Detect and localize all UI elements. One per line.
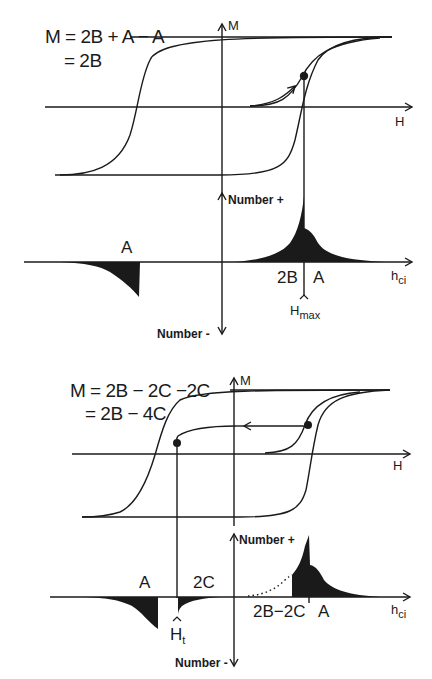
number-minus-label: Number - xyxy=(157,327,210,341)
label-a-neg: A xyxy=(139,573,151,592)
label-a-neg: A xyxy=(121,238,133,257)
state-point-end xyxy=(173,439,181,447)
neg-peak-a xyxy=(85,597,158,629)
label-a-pos: A xyxy=(313,268,325,287)
ht-label: Ht xyxy=(170,625,185,646)
h-axis-label: H xyxy=(393,458,402,473)
state-point-start xyxy=(304,421,312,429)
neg-peak-a xyxy=(60,262,140,297)
equation-line1: M = 2B − 2C −2C xyxy=(70,380,210,401)
label-2b: 2B xyxy=(277,268,298,287)
pos-peak-2b-2c-a xyxy=(292,535,380,597)
label-2c: 2C xyxy=(193,573,215,592)
equation-line1: M = 2B + A − A xyxy=(45,26,165,47)
number-plus-label: Number + xyxy=(239,533,295,547)
h-axis-label: H xyxy=(395,114,404,129)
hci-label: hci xyxy=(391,268,406,286)
ht-caret-icon xyxy=(173,617,181,621)
m-axis-label: M xyxy=(228,18,239,33)
top-distribution xyxy=(24,180,412,334)
return-curve xyxy=(177,426,236,443)
hmax-label: Hmax xyxy=(290,303,321,321)
hci-label: hci xyxy=(391,602,406,620)
equation-line2: = 2B xyxy=(64,50,102,71)
bottom-distribution xyxy=(50,534,410,666)
hysteresis-diagram: M = 2B + A − A = 2B M H A 2B A Number + … xyxy=(0,0,432,679)
neg-peak-2c xyxy=(178,597,220,615)
ascending-branch xyxy=(220,37,392,175)
minor-curve xyxy=(265,392,360,453)
hmax-caret-icon xyxy=(300,295,308,299)
label-2b-2c: 2B−2C xyxy=(253,602,305,621)
m-axis-label: M xyxy=(240,373,251,388)
minor-curve xyxy=(250,38,380,106)
descending-branch xyxy=(60,37,392,175)
dotted-tail xyxy=(248,575,292,596)
equation-line2: = 2B − 4C xyxy=(85,403,166,424)
label-a-pos: A xyxy=(318,602,330,621)
number-minus-label: Number - xyxy=(175,656,228,670)
number-plus-label: Number + xyxy=(228,193,284,207)
state-point xyxy=(300,72,308,80)
